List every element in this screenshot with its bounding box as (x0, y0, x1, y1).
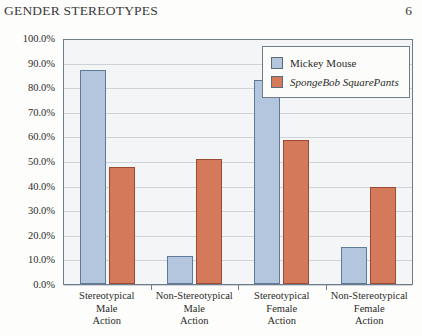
bar-group (151, 40, 238, 284)
bar (254, 80, 280, 284)
y-axis-tick-label: 50.0% (28, 157, 55, 167)
x-axis-labels: StereotypicalMaleActionNon-Stereotypical… (63, 290, 413, 328)
bar (196, 159, 222, 284)
x-axis-category-label: Non-StereotypicalFemaleAction (326, 290, 414, 328)
y-axis: 100.0%90.0%80.0%70.0%60.0%50.0%40.0%30.0… (0, 39, 60, 285)
page-header: GENDER STEREOTYPES 6 (0, 3, 422, 23)
bar (167, 256, 193, 284)
y-axis-tick-label: 70.0% (28, 108, 55, 118)
x-axis-label-line: Stereotypical (63, 290, 151, 303)
x-axis-label-line: Female (238, 303, 326, 316)
page-title: GENDER STEREOTYPES (4, 3, 158, 19)
legend-label: Mickey Mouse (290, 57, 356, 69)
legend-item: SpongeBob SquarePants (271, 72, 399, 91)
y-axis-tick-label: 0.0% (33, 280, 55, 290)
y-axis-tick-label: 90.0% (28, 59, 55, 69)
legend-label: SpongeBob SquarePants (290, 76, 399, 88)
legend-swatch (271, 57, 283, 69)
bar (283, 140, 309, 284)
bar-chart: 100.0%90.0%80.0%70.0%60.0%50.0%40.0%30.0… (0, 26, 422, 336)
x-axis-label-line: Non-Stereotypical (151, 290, 239, 303)
x-axis-label-line: Action (151, 315, 239, 328)
y-axis-tick-label: 40.0% (28, 182, 55, 192)
bar (341, 247, 367, 284)
bar (80, 70, 106, 284)
x-axis-category-label: StereotypicalMaleAction (63, 290, 151, 328)
x-axis-label-line: Stereotypical (238, 290, 326, 303)
bar (370, 187, 396, 284)
chart-legend: Mickey MouseSpongeBob SquarePants (262, 46, 410, 98)
x-axis-category-label: Non-StereotypicalMaleAction (151, 290, 239, 328)
x-axis-label-line: Male (151, 303, 239, 316)
y-axis-tick-label: 10.0% (28, 255, 55, 265)
x-axis-label-line: Non-Stereotypical (326, 290, 414, 303)
page-number: 6 (405, 3, 412, 19)
x-axis-label-line: Female (326, 303, 414, 316)
y-axis-tick-label: 100.0% (23, 34, 55, 44)
x-axis-label-line: Action (63, 315, 151, 328)
x-axis-label-line: Action (238, 315, 326, 328)
y-axis-tick-label: 30.0% (28, 206, 55, 216)
y-axis-tick-label: 80.0% (28, 83, 55, 93)
legend-swatch (271, 76, 283, 88)
x-axis-label-line: Male (63, 303, 151, 316)
x-axis-label-line: Action (326, 315, 414, 328)
y-axis-tick-label: 20.0% (28, 231, 55, 241)
legend-item: Mickey Mouse (271, 53, 399, 72)
bar-group (64, 40, 151, 284)
y-axis-tick-label: 60.0% (28, 132, 55, 142)
bar (109, 167, 135, 284)
x-axis-category-label: StereotypicalFemaleAction (238, 290, 326, 328)
